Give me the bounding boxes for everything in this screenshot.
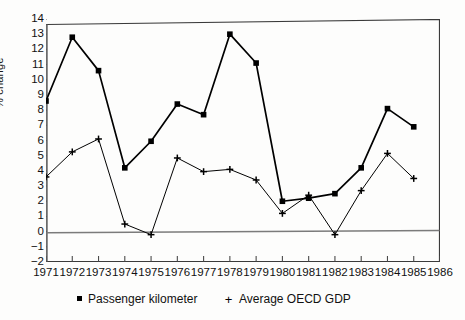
data-point-passenger-kilometer-1977 (201, 112, 207, 118)
plot-frame-border (47, 20, 440, 262)
data-point-passenger-kilometer-1975 (148, 138, 154, 144)
y-axis-tick-label: 8 (2, 104, 44, 116)
x-axis-tick-label: 1984 (375, 266, 401, 278)
data-point-average-oecd-gdp-1973 (95, 136, 102, 143)
x-axis-tick-label: 1975 (138, 266, 164, 278)
data-point-passenger-kilometer-1978 (227, 31, 233, 37)
y-axis-tick-label: −1 (2, 241, 44, 253)
data-point-passenger-kilometer-1972 (69, 34, 75, 40)
data-point-passenger-kilometer-1984 (385, 106, 391, 112)
data-point-passenger-kilometer-1980 (280, 198, 286, 204)
x-axis-tick-label: 1971 (33, 266, 59, 278)
data-point-passenger-kilometer-1979 (253, 60, 259, 66)
y-axis-tick-label: 13 (2, 28, 44, 40)
y-axis-tick-label: 12 (2, 44, 44, 56)
data-point-average-oecd-gdp-1977 (200, 168, 207, 175)
data-point-average-oecd-gdp-1983 (358, 187, 365, 194)
y-axis-tick-label: 14 (2, 13, 44, 25)
zero-reference-line (47, 230, 440, 232)
data-point-passenger-kilometer-1982 (332, 191, 338, 197)
y-axis-tick-label: 1 (2, 211, 44, 223)
x-axis-tick-label: 1986 (427, 266, 453, 278)
y-axis-tick-label: 9 (2, 89, 44, 101)
x-axis-tick-label: 1973 (86, 266, 112, 278)
data-point-average-oecd-gdp-1982 (332, 231, 339, 238)
data-point-passenger-kilometer-1983 (358, 165, 364, 171)
y-axis-tick-label: 2 (2, 196, 44, 208)
series-line-passenger-kilometer (46, 34, 414, 201)
y-axis-tick-label: 10 (2, 74, 44, 86)
plot-area (46, 19, 440, 262)
x-axis-tick-label: 1979 (243, 266, 269, 278)
x-axis-tick-label: 1982 (322, 266, 348, 278)
data-point-average-oecd-gdp-1976 (174, 155, 181, 162)
x-axis-tick-label: 1972 (60, 266, 86, 278)
data-point-average-oecd-gdp-1974 (121, 221, 128, 228)
legend-item-passenger-kilometer: Passenger kilometer (77, 292, 197, 306)
data-point-passenger-kilometer-1973 (96, 68, 102, 74)
y-axis-tick-label: 7 (2, 120, 44, 132)
data-point-average-oecd-gdp-1978 (226, 166, 233, 173)
x-axis-tick-label: 1980 (270, 266, 296, 278)
plus-marker-icon: + (224, 294, 233, 305)
y-axis-tick-label: 3 (2, 180, 44, 192)
y-axis-tick-label: 4 (2, 165, 44, 177)
x-axis-tick-label: 1974 (112, 266, 138, 278)
data-point-passenger-kilometer-1974 (122, 165, 128, 171)
x-axis-tick-label: 1983 (348, 266, 374, 278)
y-axis-tick-labels: 14131211109876543210−1−2 (0, 19, 44, 262)
square-marker-icon (77, 296, 82, 301)
data-point-passenger-kilometer-1971 (46, 98, 49, 104)
legend-label-passenger-kilometer: Passenger kilometer (88, 292, 197, 306)
x-axis-tick-label: 1985 (401, 266, 427, 278)
plot-svg (46, 19, 440, 262)
x-axis-tick-label: 1978 (217, 266, 243, 278)
y-axis-tick-label: 11 (2, 59, 44, 71)
y-axis-tick-label: 6 (2, 135, 44, 147)
x-axis-tick-label: 1976 (165, 266, 191, 278)
legend-label-average-oecd-gdp: Average OECD GDP (239, 292, 351, 306)
x-axis-tick-label: 1981 (296, 266, 322, 278)
chart-legend: Passenger kilometer + Average OECD GDP (0, 292, 465, 314)
data-point-passenger-kilometer-1976 (175, 101, 181, 107)
series-line-average-oecd-gdp (46, 139, 414, 235)
data-point-passenger-kilometer-1985 (411, 124, 417, 130)
x-axis-tick-label: 1977 (191, 266, 217, 278)
chart-page: % change 14131211109876543210−1−2 197119… (0, 0, 465, 320)
legend-item-average-oecd-gdp: + Average OECD GDP (224, 292, 351, 306)
x-axis-tick-labels: 1971197219731974197519761977197819791980… (0, 266, 465, 288)
y-axis-tick-label: 5 (2, 150, 44, 162)
y-axis-tick-label: 0 (2, 226, 44, 238)
